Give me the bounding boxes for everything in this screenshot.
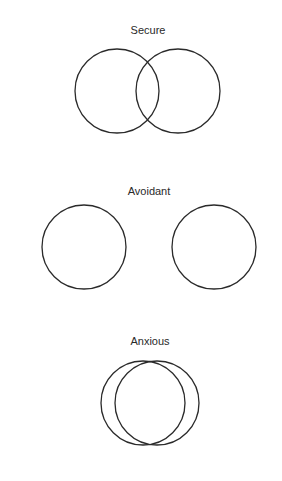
anxious-circle-1	[101, 361, 185, 445]
avoidant-circle-2	[172, 205, 256, 289]
anxious-circle-2	[115, 361, 199, 445]
avoidant-circle-1	[42, 205, 126, 289]
circles-canvas	[0, 0, 282, 481]
secure-circle-1	[75, 49, 159, 133]
secure-circle-2	[136, 49, 220, 133]
